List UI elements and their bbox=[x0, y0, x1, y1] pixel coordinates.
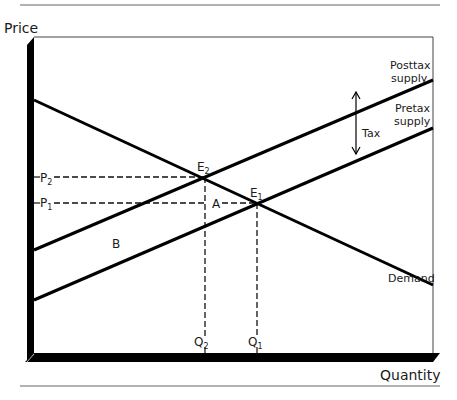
e2-label: E2 bbox=[197, 160, 210, 176]
area-a-label: A bbox=[212, 197, 221, 211]
pretax-label-line2: supply bbox=[394, 115, 431, 128]
posttax-label-line1: Posttax bbox=[390, 59, 431, 72]
p1-label: P1 bbox=[40, 196, 52, 212]
q2-label: Q2 bbox=[194, 335, 209, 351]
y-axis-bar bbox=[27, 37, 34, 362]
posttax-label-line2: supply bbox=[391, 72, 428, 85]
x-axis-label: Quantity bbox=[380, 367, 441, 383]
tax-incidence-diagram: Price Quantity Posttax supply Pretax sup… bbox=[0, 0, 457, 400]
tax-label: Tax bbox=[361, 127, 381, 140]
demand-label: Demand bbox=[388, 272, 435, 285]
x-axis-bar bbox=[25, 353, 440, 362]
pretax-supply-curve bbox=[34, 128, 433, 300]
e1-label: E1 bbox=[250, 186, 263, 202]
area-b-label: B bbox=[112, 237, 120, 251]
y-axis-label: Price bbox=[4, 20, 38, 36]
dashed-guides bbox=[54, 177, 257, 338]
pretax-label-line1: Pretax bbox=[395, 102, 431, 115]
p2-label: P2 bbox=[40, 171, 52, 187]
posttax-supply-curve bbox=[34, 80, 433, 250]
q1-label: Q1 bbox=[248, 335, 263, 351]
tax-arrow-icon bbox=[352, 92, 360, 154]
